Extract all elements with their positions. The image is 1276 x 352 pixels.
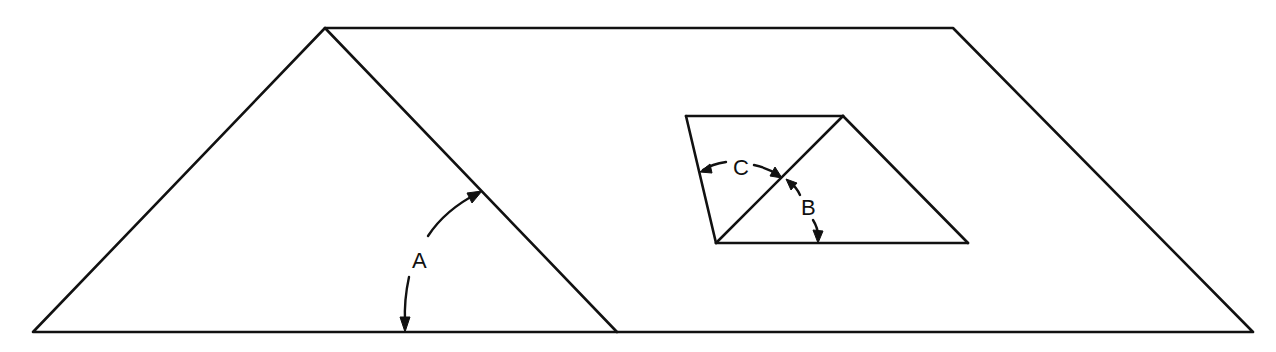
inner-left-edge — [686, 116, 716, 243]
inner-right-edge — [843, 116, 968, 243]
outer-trapezoid — [33, 28, 1253, 332]
angle-b-arrow-lower-icon — [813, 230, 823, 243]
angle-a-arc-lower — [405, 277, 409, 322]
angle-a-arrow-upper-icon — [467, 191, 482, 203]
angle-b-marker: B — [786, 179, 823, 243]
angle-c-label: C — [733, 155, 749, 180]
inner-figure — [686, 116, 968, 243]
angle-a-arrow-lower-icon — [400, 317, 410, 332]
angle-c-arrow-right-icon — [770, 167, 782, 178]
geometry-diagram: A C B — [0, 0, 1276, 352]
angle-b-label: B — [801, 195, 816, 220]
interior-diagonal — [325, 28, 617, 332]
angle-a-marker: A — [400, 191, 482, 332]
angle-a-label: A — [412, 248, 427, 273]
angle-c-marker: C — [700, 155, 782, 180]
angle-c-arrow-left-icon — [700, 164, 712, 173]
